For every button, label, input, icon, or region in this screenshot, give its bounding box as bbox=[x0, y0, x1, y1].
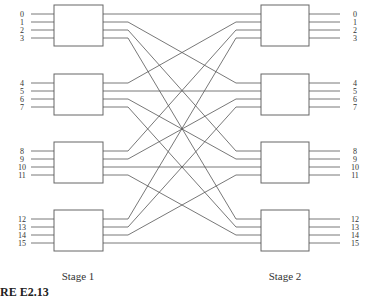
stage2-switch-box bbox=[261, 74, 309, 115]
interstage-wire bbox=[103, 38, 261, 219]
stage1-switch-box bbox=[54, 210, 103, 251]
figure-caption: RE E2.13 bbox=[0, 285, 49, 298]
stage1-switch-box bbox=[54, 74, 103, 115]
output-label: 3 bbox=[353, 34, 357, 43]
input-label: 15 bbox=[18, 239, 26, 248]
input-label: 11 bbox=[18, 171, 26, 180]
stage-1-label: Stage 1 bbox=[62, 270, 95, 282]
interstage-wire bbox=[103, 175, 261, 235]
stage1-switch-box bbox=[54, 5, 103, 46]
interstage-wire bbox=[103, 22, 261, 83]
two-stage-switch-network: 0011223344556677889910101111121213131414… bbox=[0, 0, 367, 298]
stage2-switch-box bbox=[261, 142, 309, 183]
input-label: 7 bbox=[20, 103, 24, 112]
output-label: 7 bbox=[353, 103, 357, 112]
stage2-switch-box bbox=[261, 5, 309, 46]
interstage-wire bbox=[103, 30, 261, 151]
output-label: 11 bbox=[351, 171, 359, 180]
input-label: 3 bbox=[20, 34, 24, 43]
stage2-switch-box bbox=[261, 210, 309, 251]
output-label: 15 bbox=[351, 239, 359, 248]
stage-2-label: Stage 2 bbox=[269, 270, 302, 282]
stage1-switch-box bbox=[54, 142, 103, 183]
